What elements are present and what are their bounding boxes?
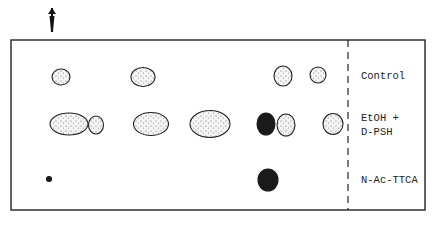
lane-label-etoh-line1: EtOH + (361, 112, 399, 124)
spot-lane1-4 (257, 113, 275, 135)
arrow-down-icon (48, 8, 56, 32)
spot-lane0-1 (131, 68, 155, 87)
spot-lane1-2 (134, 113, 169, 136)
lane-label-control: Control (361, 70, 405, 82)
lane-label-n-ac-ttca: N-Ac-TTCA (361, 174, 418, 186)
spot-lane1-0 (50, 113, 88, 135)
spot-lane1-3 (190, 111, 230, 138)
spots-layer (47, 66, 344, 191)
spot-lane2-1 (258, 169, 278, 191)
lane-label-etoh-line2: D-PSH (361, 126, 393, 138)
spot-lane0-2 (274, 66, 292, 86)
spot-lane1-1 (89, 116, 104, 134)
spot-lane0-0 (52, 69, 70, 85)
spot-lane1-5 (277, 114, 295, 136)
spot-lane0-3 (310, 67, 326, 83)
spot-lane1-6 (323, 114, 343, 135)
spot-lane2-0 (47, 177, 52, 182)
tlc-diagram: Control EtOH + D-PSH N-Ac-TTCA (0, 0, 435, 226)
